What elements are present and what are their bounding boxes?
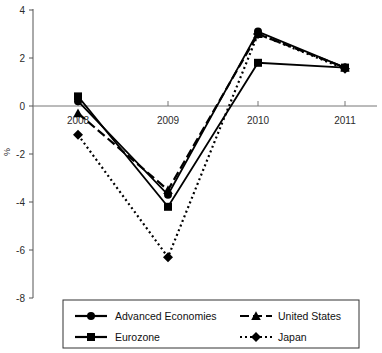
x-tick-label: 2010 <box>247 115 270 126</box>
square-marker <box>254 59 262 67</box>
square-marker <box>74 92 82 100</box>
circle-marker <box>87 312 95 320</box>
y-tick-label: 0 <box>19 101 25 112</box>
legend-label: United States <box>278 310 341 322</box>
chart-canvas: 420-2-4-6-8 2008200920102011 % Advanced … <box>0 0 382 353</box>
line-chart: 420-2-4-6-8 2008200920102011 % Advanced … <box>0 0 382 353</box>
legend-label: Japan <box>278 331 307 343</box>
legend-box <box>63 300 359 348</box>
y-tick-label: -4 <box>16 197 25 208</box>
square-marker <box>87 333 95 341</box>
y-axis-title: % <box>2 148 12 156</box>
y-tick-label: -8 <box>16 293 25 304</box>
legend-label: Eurozone <box>115 331 160 343</box>
y-tick-label: -6 <box>16 245 25 256</box>
x-tick-label: 2009 <box>157 115 180 126</box>
y-tick-label: 2 <box>19 53 25 64</box>
square-marker <box>164 203 172 211</box>
y-tick-label: 4 <box>19 5 25 16</box>
x-tick-label: 2011 <box>334 115 356 126</box>
legend-label: Advanced Economies <box>115 310 217 322</box>
y-tick-label: -2 <box>16 149 25 160</box>
